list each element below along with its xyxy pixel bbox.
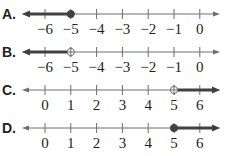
choice-b[interactable]: B.−6−5−4−3−2−10 [2, 44, 220, 75]
tick-label: 6 [196, 97, 204, 113]
ray-arrow-icon [22, 11, 30, 18]
arrow-left-icon [22, 88, 29, 93]
tick-label: 0 [41, 135, 49, 151]
tick-label: 0 [196, 21, 204, 37]
tick-label: −3 [114, 21, 130, 37]
tick-label: −5 [63, 21, 79, 37]
arrow-right-icon [213, 50, 220, 55]
ray-arrow-icon [212, 125, 220, 132]
tick-label: −2 [140, 59, 156, 75]
choice-letter: C. [2, 82, 16, 98]
closed-point-icon [67, 10, 74, 17]
number-line-choices: A.−6−5−4−3−2−10B.−6−5−4−3−2−10C.0123456D… [0, 0, 228, 156]
tick-label: 1 [67, 97, 75, 113]
tick-label: 3 [119, 135, 127, 151]
tick-label: 3 [119, 97, 127, 113]
tick-label: −4 [89, 59, 105, 75]
choice-letter: D. [2, 120, 16, 136]
tick-label: 0 [196, 59, 204, 75]
ray-arrow-icon [212, 87, 220, 94]
tick-label: −1 [166, 59, 182, 75]
arrow-left-icon [22, 126, 29, 131]
tick-label: 0 [41, 97, 49, 113]
choice-c[interactable]: C.0123456 [2, 82, 220, 113]
tick-label: −5 [63, 59, 79, 75]
choice-a[interactable]: A.−6−5−4−3−2−10 [2, 6, 220, 37]
tick-label: −6 [37, 59, 53, 75]
closed-point-icon [170, 124, 177, 131]
tick-label: 2 [93, 135, 101, 151]
tick-label: 4 [144, 97, 152, 113]
choice-letter: A. [2, 6, 16, 22]
tick-label: 1 [67, 135, 75, 151]
tick-label: 5 [170, 97, 178, 113]
tick-label: 4 [144, 135, 152, 151]
choice-letter: B. [2, 44, 16, 60]
tick-label: 2 [93, 97, 101, 113]
tick-label: −1 [166, 21, 182, 37]
tick-label: −4 [89, 21, 105, 37]
arrow-right-icon [213, 12, 220, 17]
choice-d[interactable]: D.0123456 [2, 120, 220, 151]
ray-arrow-icon [22, 49, 30, 56]
tick-label: −6 [37, 21, 53, 37]
tick-label: 6 [196, 135, 204, 151]
tick-label: −3 [114, 59, 130, 75]
tick-label: −2 [140, 21, 156, 37]
tick-label: 5 [170, 135, 178, 151]
